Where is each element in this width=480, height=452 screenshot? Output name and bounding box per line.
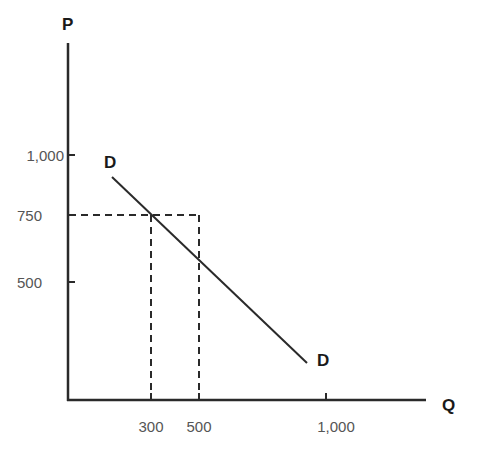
- demand-chart: P Q 1,000 750 500 300 500 1,000 D D: [0, 0, 480, 452]
- demand-label-bottom: D: [317, 351, 329, 370]
- demand-line: [112, 177, 307, 363]
- y-tick-label-1000: 1,000: [26, 147, 64, 164]
- x-tick-label-500: 500: [186, 418, 211, 435]
- x-axis-label: Q: [442, 396, 455, 415]
- y-tick-label-750: 750: [17, 207, 42, 224]
- x-tick-label-1000: 1,000: [317, 418, 355, 435]
- y-tick-label-500: 500: [17, 274, 42, 291]
- y-axis-label: P: [62, 15, 73, 34]
- x-tick-label-300: 300: [138, 418, 163, 435]
- demand-label-top: D: [104, 153, 116, 172]
